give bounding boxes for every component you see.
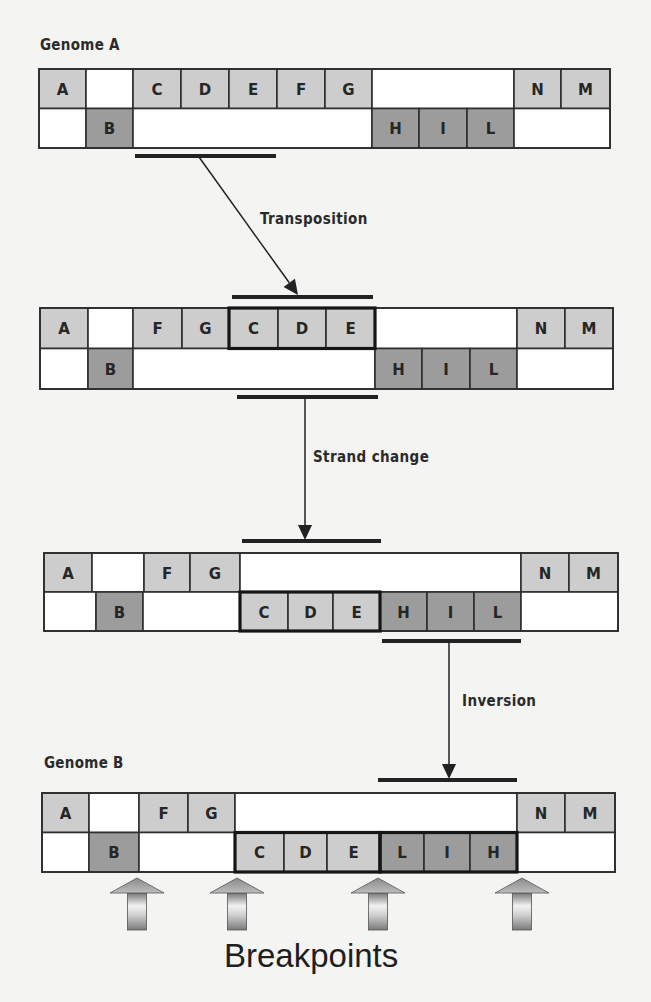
svg-text:C: C xyxy=(151,81,162,99)
svg-text:L: L xyxy=(486,120,496,138)
svg-text:N: N xyxy=(535,805,548,823)
svg-text:I: I xyxy=(443,361,449,379)
svg-text:L: L xyxy=(489,361,499,379)
svg-text:C: C xyxy=(258,604,269,622)
inversion-label: Inversion xyxy=(462,692,536,710)
gene-m: M xyxy=(565,793,615,833)
svg-text:A: A xyxy=(58,320,70,338)
empty-slot xyxy=(42,833,89,873)
empty-slot xyxy=(44,592,96,631)
gene-i: I xyxy=(427,592,474,631)
gene-h: H xyxy=(470,833,517,873)
gene-n: N xyxy=(514,69,561,109)
gene-a: A xyxy=(40,308,88,349)
intermediate-1-bar: AFGCDENMBHIL xyxy=(40,308,613,389)
intermediate-2-bar: AFGNMBCDEHIL xyxy=(44,553,618,631)
svg-text:G: G xyxy=(209,565,221,583)
svg-text:D: D xyxy=(299,844,311,862)
svg-text:H: H xyxy=(389,120,402,138)
gene-m: M xyxy=(561,69,610,109)
genome-b-label: Genome B xyxy=(44,754,124,772)
gene-d: D xyxy=(278,308,326,349)
empty-slot xyxy=(514,109,610,149)
transposition-label: Transposition xyxy=(260,210,368,228)
gene-d: D xyxy=(284,833,327,873)
svg-text:F: F xyxy=(296,81,306,99)
gene-i: I xyxy=(424,833,470,873)
gene-d: D xyxy=(288,592,333,631)
gene-g: G xyxy=(182,308,229,349)
genome-rearrangement-diagram: ACDEFGNMBHILAFGCDENMBHILAFGNMBCDEHILAFGN… xyxy=(0,0,651,1002)
genome-a-bar: ACDEFGNMBHIL xyxy=(39,69,610,148)
empty-slot xyxy=(372,69,514,109)
svg-text:G: G xyxy=(342,81,354,99)
svg-text:E: E xyxy=(351,604,361,622)
empty-slot xyxy=(240,553,521,592)
empty-slot xyxy=(40,349,88,390)
gene-n: N xyxy=(517,793,565,833)
gene-g: G xyxy=(188,793,235,833)
svg-text:I: I xyxy=(440,120,446,138)
empty-slot xyxy=(133,109,372,149)
svg-text:B: B xyxy=(114,604,125,622)
gene-h: H xyxy=(372,109,419,149)
svg-text:G: G xyxy=(199,320,211,338)
svg-text:L: L xyxy=(493,604,503,622)
genome-a-label: Genome A xyxy=(40,36,120,54)
gene-c: C xyxy=(229,308,278,349)
empty-slot xyxy=(92,553,144,592)
gene-b: B xyxy=(88,349,133,390)
gene-f: F xyxy=(133,308,182,349)
empty-slot xyxy=(235,793,517,833)
svg-text:C: C xyxy=(254,844,265,862)
gene-c: C xyxy=(240,592,288,631)
empty-slot xyxy=(39,109,86,149)
svg-text:N: N xyxy=(531,81,544,99)
genome-b-bar: AFGNMBCDELIH xyxy=(42,793,615,872)
svg-text:E: E xyxy=(248,81,258,99)
breakpoint-arrow-icon xyxy=(351,878,405,930)
breakpoint-arrows xyxy=(110,878,549,930)
svg-text:I: I xyxy=(448,604,454,622)
svg-text:M: M xyxy=(583,805,598,823)
gene-f: F xyxy=(144,553,190,592)
empty-slot xyxy=(517,349,613,390)
gene-m: M xyxy=(569,553,618,592)
gene-n: N xyxy=(517,308,565,349)
gene-l: L xyxy=(380,833,424,873)
gene-f: F xyxy=(277,69,325,109)
svg-text:H: H xyxy=(397,604,410,622)
breakpoint-arrow-icon xyxy=(110,878,164,930)
empty-slot xyxy=(88,308,133,349)
gene-d: D xyxy=(181,69,229,109)
empty-slot xyxy=(133,349,375,390)
gene-m: M xyxy=(565,308,613,349)
svg-text:F: F xyxy=(158,805,168,823)
gene-g: G xyxy=(190,553,240,592)
gene-h: H xyxy=(375,349,422,390)
gene-a: A xyxy=(39,69,86,109)
breakpoint-arrow-icon xyxy=(210,878,264,930)
step-arrow xyxy=(442,642,456,779)
svg-text:F: F xyxy=(152,320,162,338)
segment-markers xyxy=(135,156,521,780)
svg-text:D: D xyxy=(199,81,211,99)
svg-text:B: B xyxy=(105,361,116,379)
svg-text:F: F xyxy=(162,565,172,583)
svg-text:E: E xyxy=(345,320,355,338)
svg-text:B: B xyxy=(108,844,119,862)
svg-text:I: I xyxy=(444,844,450,862)
empty-slot xyxy=(139,833,235,873)
gene-n: N xyxy=(521,553,569,592)
svg-text:M: M xyxy=(578,81,593,99)
gene-f: F xyxy=(139,793,188,833)
empty-slot xyxy=(375,308,517,349)
svg-text:G: G xyxy=(205,805,217,823)
empty-slot xyxy=(143,592,240,631)
svg-text:M: M xyxy=(586,565,601,583)
svg-text:D: D xyxy=(296,320,308,338)
empty-slot xyxy=(517,833,615,873)
svg-text:A: A xyxy=(57,81,69,99)
gene-c: C xyxy=(235,833,284,873)
gene-b: B xyxy=(89,833,139,873)
